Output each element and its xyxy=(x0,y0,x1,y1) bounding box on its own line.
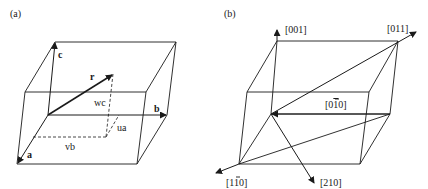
label-001: [001] xyxy=(285,24,307,35)
label-0-bar1-0: [010] xyxy=(325,99,347,110)
vector-c-arrow xyxy=(48,43,55,115)
label-1-bar1-0: [110] xyxy=(226,177,247,188)
label-r: r xyxy=(90,71,95,82)
label-ua: ua xyxy=(117,122,127,133)
label-210: [210] xyxy=(320,177,342,188)
vector-r-arrow xyxy=(48,75,112,115)
panel-a-label: (a) xyxy=(10,8,21,20)
unit-cell-box-b xyxy=(239,41,398,164)
crystal-diagram: (a) c r b a xyxy=(0,0,428,189)
panel-a: (a) c r b a xyxy=(10,8,176,164)
label-vb: vb xyxy=(65,141,75,152)
panel-b-label: (b) xyxy=(224,8,236,20)
component-dashes xyxy=(33,74,119,137)
direction-1-10-arrow xyxy=(216,164,239,173)
label-wc: wc xyxy=(94,97,106,108)
vector-a-arrow xyxy=(18,115,48,163)
panel-b: (b) [001] [011] xyxy=(216,8,416,188)
direction-210-arrow xyxy=(271,114,314,183)
label-b: b xyxy=(154,103,160,114)
label-c: c xyxy=(58,49,63,60)
label-a: a xyxy=(27,149,32,160)
label-011: [011] xyxy=(387,23,408,34)
